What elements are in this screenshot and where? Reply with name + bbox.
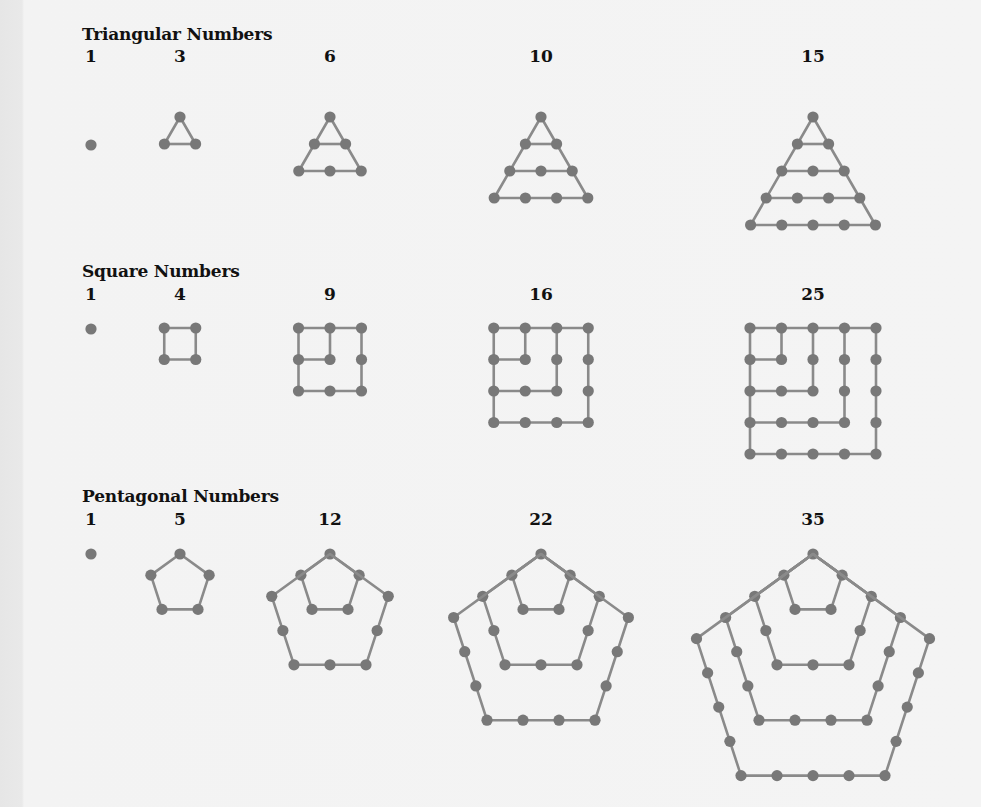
dot xyxy=(789,715,800,726)
dot xyxy=(776,417,787,428)
dot xyxy=(776,448,787,459)
dot xyxy=(360,659,371,670)
dot xyxy=(807,385,818,396)
pentagonal-figure-22 xyxy=(448,548,634,725)
dot xyxy=(324,322,335,333)
dot xyxy=(190,354,201,365)
dot xyxy=(571,659,582,670)
pentagonal-figure-12 xyxy=(266,548,394,670)
triangular-figure-3 xyxy=(159,111,201,149)
dot xyxy=(913,667,924,678)
dot xyxy=(488,625,499,636)
triangular-figure-10 xyxy=(489,111,594,203)
dot xyxy=(744,354,755,365)
dot xyxy=(342,604,353,615)
dot xyxy=(567,165,578,176)
dot xyxy=(583,417,594,428)
dot xyxy=(744,322,755,333)
dot xyxy=(583,322,594,333)
dot xyxy=(789,604,800,615)
dot xyxy=(612,646,623,657)
dot xyxy=(582,192,593,203)
dot xyxy=(551,138,562,149)
dot xyxy=(870,322,881,333)
dot xyxy=(517,604,528,615)
triangular-figure-1 xyxy=(85,139,96,150)
dot xyxy=(504,165,515,176)
dot xyxy=(744,448,755,459)
dot xyxy=(159,322,170,333)
dot xyxy=(807,165,818,176)
dot xyxy=(520,385,531,396)
dot xyxy=(383,591,394,602)
dot xyxy=(724,736,735,747)
dot xyxy=(324,165,335,176)
dot xyxy=(85,323,96,334)
dot xyxy=(488,417,499,428)
dot xyxy=(745,219,756,230)
dot xyxy=(771,770,782,781)
dot xyxy=(854,192,865,203)
dot xyxy=(792,138,803,149)
dot xyxy=(870,385,881,396)
dot xyxy=(324,354,335,365)
dot xyxy=(288,659,299,670)
pentagonal-figure-5 xyxy=(145,548,214,615)
dot xyxy=(448,612,459,623)
dot xyxy=(742,680,753,691)
dot xyxy=(735,770,746,781)
dot xyxy=(879,770,890,781)
dot xyxy=(340,138,351,149)
dot xyxy=(356,322,367,333)
dot xyxy=(520,138,531,149)
dot xyxy=(174,111,185,122)
dot xyxy=(266,591,277,602)
dot xyxy=(159,354,170,365)
dot xyxy=(372,625,383,636)
dot xyxy=(855,625,866,636)
dot xyxy=(293,385,304,396)
dot xyxy=(488,322,499,333)
dot xyxy=(293,354,304,365)
dot xyxy=(839,322,850,333)
dot xyxy=(771,659,782,670)
dot xyxy=(731,646,742,657)
dot xyxy=(174,548,185,559)
dot-figures xyxy=(0,0,981,807)
dot xyxy=(761,192,772,203)
square-figure-9 xyxy=(293,322,367,396)
dot xyxy=(356,165,367,176)
dot xyxy=(156,604,167,615)
dot xyxy=(839,219,850,230)
dot xyxy=(589,715,600,726)
triangular-figure-15 xyxy=(745,111,881,230)
dot xyxy=(204,570,215,581)
dot xyxy=(702,667,713,678)
dot xyxy=(776,165,787,176)
dot xyxy=(459,646,470,657)
dot xyxy=(583,354,594,365)
dot xyxy=(583,625,594,636)
dot xyxy=(535,111,546,122)
dot xyxy=(583,385,594,396)
dot xyxy=(192,604,203,615)
dot xyxy=(535,165,546,176)
dot xyxy=(760,625,771,636)
dot xyxy=(776,322,787,333)
square-figure-25 xyxy=(744,322,881,459)
dot xyxy=(553,604,564,615)
dot xyxy=(85,139,96,150)
dot xyxy=(776,385,787,396)
dot xyxy=(324,385,335,396)
dot xyxy=(551,192,562,203)
dot xyxy=(489,192,500,203)
dot xyxy=(691,633,702,644)
dot xyxy=(535,659,546,670)
dot xyxy=(902,702,913,713)
dot xyxy=(839,417,850,428)
dot xyxy=(499,659,510,670)
dot xyxy=(807,111,818,122)
dot xyxy=(825,604,836,615)
dot xyxy=(145,570,156,581)
dot xyxy=(159,138,170,149)
